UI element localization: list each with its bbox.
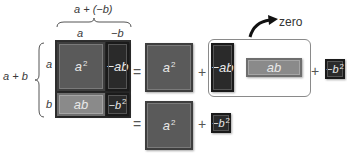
plus-sign-2: + (311, 63, 319, 79)
curved-arrow-icon (246, 12, 280, 38)
tile-label: a (163, 60, 170, 75)
plus-sign-3: + (198, 116, 206, 132)
grid-tile-a-squared: a2 (57, 42, 105, 91)
row1-tile-neg-ab: −ab (211, 43, 234, 92)
tile-label: ab (74, 97, 88, 112)
top-a-label: a (77, 27, 83, 39)
grid-tile-neg-b-squared: −b2 (106, 93, 129, 116)
tile-label: −b (109, 99, 122, 111)
tile-exponent: 2 (171, 60, 175, 69)
grid-tile-ab: ab (57, 93, 105, 116)
tile-exponent: 2 (340, 62, 344, 71)
plus-sign-1: + (198, 64, 206, 80)
left-a-label: a (46, 58, 52, 70)
tile-label: −ab (106, 59, 128, 74)
tile-label: −b (326, 63, 339, 75)
grid-tile-neg-ab: −ab (106, 42, 129, 91)
tile-label: −b (212, 117, 225, 129)
tile-exponent: 2 (122, 97, 126, 106)
tile-exponent: 2 (171, 118, 175, 127)
row1-tile-a-squared: a2 (145, 43, 193, 92)
left-brace-icon (34, 42, 46, 118)
row2-tile-neg-b-squared: −b2 (211, 113, 231, 133)
tile-exponent: 2 (226, 116, 230, 125)
top-sum-label: a + (−b) (74, 3, 113, 15)
left-b-label: b (46, 98, 52, 110)
tile-label: ab (267, 60, 281, 75)
row1-tile-neg-b-squared: −b2 (325, 59, 345, 79)
tile-label: a (163, 118, 170, 133)
equals-sign-1: = (133, 64, 141, 80)
tile-label: a (75, 59, 82, 74)
equals-sign-2: = (133, 116, 141, 132)
row2-tile-a-squared: a2 (145, 101, 193, 150)
left-sum-label: a + b (3, 70, 28, 82)
top-neg-b-label: −b (111, 27, 124, 39)
row1-tile-ab: ab (246, 58, 302, 77)
tile-exponent: 2 (83, 59, 87, 68)
tile-label: −ab (211, 60, 233, 75)
zero-label: zero (279, 15, 302, 29)
